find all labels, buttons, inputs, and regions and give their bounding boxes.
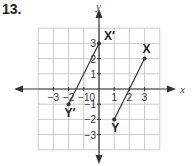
point-X	[143, 57, 147, 61]
x-tick-label: 3	[142, 92, 148, 103]
y-tick-label: 3	[90, 38, 96, 49]
y-tick-label: −3	[85, 130, 97, 141]
x-tick-label: −2	[63, 92, 75, 103]
y-tick-label: −2	[85, 114, 97, 125]
axes: xy	[14, 0, 185, 164]
x-axis-right-arrow-icon	[167, 86, 176, 93]
point-X-prime	[97, 41, 101, 45]
x-tick-label: 1	[111, 92, 117, 103]
y-axis-down-arrow-icon	[96, 155, 103, 164]
x-tick-label: −3	[48, 92, 60, 103]
point-label-Y-prime: Y′	[65, 106, 76, 120]
point-label-X: X	[143, 42, 151, 56]
coordinate-plane: xy −3−2−1123321−1−2−30 XYX′Y′	[0, 0, 192, 166]
point-label-Y: Y	[111, 121, 119, 135]
y-axis-label: y	[95, 0, 101, 12]
point-label-X-prime: X′	[104, 29, 115, 43]
segments	[69, 43, 145, 119]
y-tick-label: 1	[90, 69, 96, 80]
origin-label: 0	[89, 92, 95, 103]
x-axis-left-arrow-icon	[14, 86, 23, 93]
x-axis-label: x	[179, 83, 185, 95]
